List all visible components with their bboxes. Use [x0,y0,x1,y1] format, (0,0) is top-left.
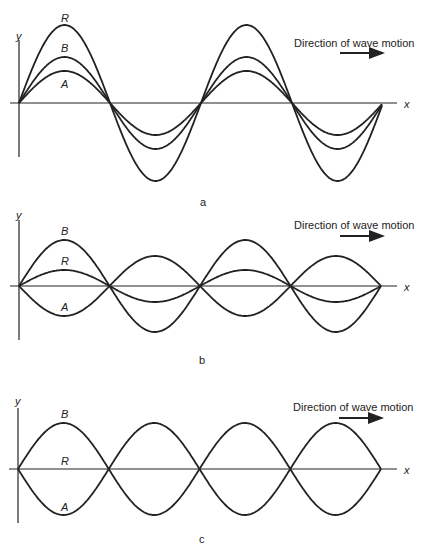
label-R: R [61,455,69,467]
y-axis-label: y [14,395,22,407]
panel-c: y x B R A Direction of wave motion c [9,395,413,545]
label-A: A [60,501,68,513]
label-A: A [60,78,68,90]
panel-caption: a [200,196,207,208]
y-axis-label: y [15,30,23,42]
label-B: B [61,408,68,420]
label-A: A [60,301,68,313]
label-R: R [61,12,69,24]
label-B: B [61,42,68,54]
x-axis-label: x [403,464,410,476]
label-R: R [61,255,69,267]
x-axis-label: x [403,98,410,110]
x-axis-label: x [403,281,410,293]
wave-interference-figure: y x R B A Direction of wave motion a y x… [0,0,425,547]
direction-label: Direction of wave motion [294,219,414,231]
panel-caption: b [199,354,205,366]
panel-b: y x B R A Direction of wave motion b [10,209,414,366]
direction-label: Direction of wave motion [293,401,413,413]
panel-caption: c [199,533,205,545]
label-B: B [61,225,68,237]
y-axis-label: y [15,209,23,221]
direction-label: Direction of wave motion [294,37,414,49]
panel-a: y x R B A Direction of wave motion a [10,12,414,208]
